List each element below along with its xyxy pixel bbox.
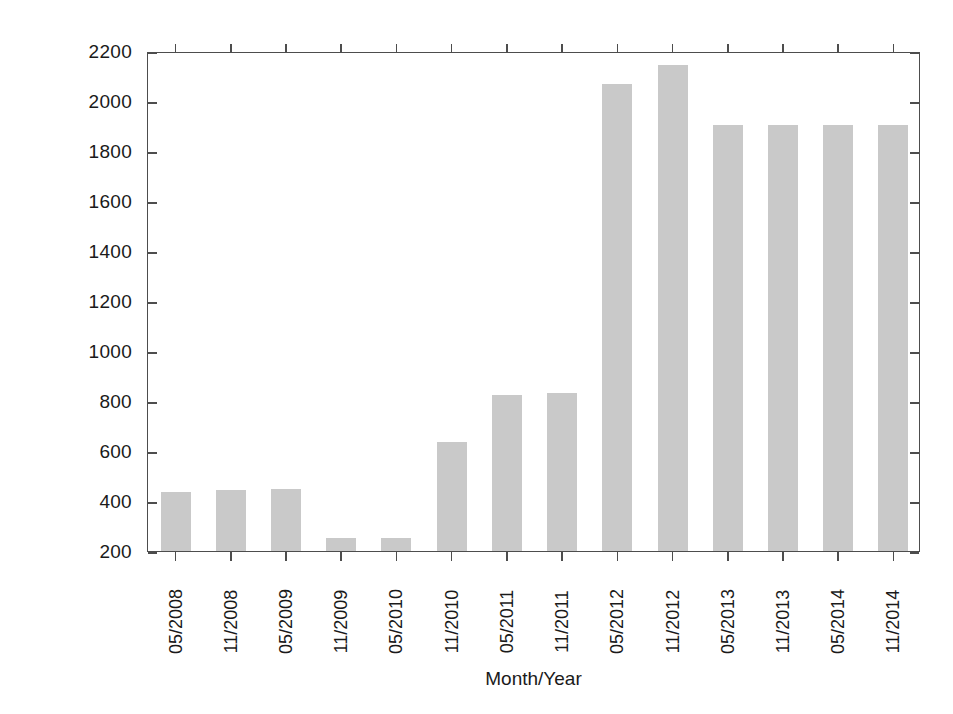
x-tick-label: 05/2011: [475, 567, 539, 632]
x-tick-mark-top: [617, 44, 619, 53]
x-tick-label-text: 11/2008: [220, 590, 241, 654]
y-tick-mark-right: [910, 202, 919, 204]
y-tick-mark: [148, 352, 157, 354]
x-tick-label-text: 11/2012: [662, 590, 683, 654]
x-axis-title: Month/Year: [147, 668, 920, 690]
x-tick-label-text: 11/2013: [772, 590, 793, 654]
x-tick-mark: [396, 552, 398, 561]
bar: [492, 395, 522, 551]
y-tick-label: 1600: [32, 191, 132, 213]
x-tick-mark-top: [727, 44, 729, 53]
x-tick-mark-top: [672, 44, 674, 53]
x-tick-mark: [230, 552, 232, 561]
x-tick-mark: [727, 552, 729, 561]
bar: [381, 538, 411, 551]
plot-area: 2004006008001000120014001600180020002200…: [147, 52, 920, 552]
y-tick-label: 800: [32, 391, 132, 413]
y-tick-mark: [148, 552, 157, 554]
x-tick-mark-top: [396, 44, 398, 53]
x-tick-mark-top: [451, 44, 453, 53]
x-tick-label-text: 05/2011: [496, 590, 517, 654]
y-tick-mark: [148, 402, 157, 404]
x-tick-mark: [782, 552, 784, 561]
y-tick-mark-right: [910, 552, 919, 554]
x-tick-mark: [285, 552, 287, 561]
x-tick-mark: [506, 552, 508, 561]
bar: [713, 125, 743, 551]
bar: [161, 492, 191, 551]
bar: [602, 84, 632, 551]
x-tick-label-text: 05/2010: [386, 589, 407, 654]
x-tick-label-text: 11/2014: [883, 590, 904, 654]
x-tick-mark-top: [561, 44, 563, 53]
y-tick-label: 2200: [32, 41, 132, 63]
y-tick-mark: [148, 252, 157, 254]
x-tick-mark: [672, 552, 674, 561]
x-tick-mark-top: [893, 44, 895, 53]
y-tick-mark-right: [910, 102, 919, 104]
x-tick-mark-top: [837, 44, 839, 53]
x-tick-mark-top: [230, 44, 232, 53]
y-tick-label: 600: [32, 441, 132, 463]
x-tick-mark-top: [175, 44, 177, 53]
x-tick-label: 11/2014: [862, 567, 926, 632]
y-tick-mark-right: [910, 452, 919, 454]
x-tick-label-text: 05/2009: [276, 589, 297, 654]
y-tick-mark-right: [910, 352, 919, 354]
y-tick-mark-right: [910, 252, 919, 254]
x-tick-label-text: 11/2010: [441, 590, 462, 654]
y-tick-mark: [148, 102, 157, 104]
y-tick-label: 2000: [32, 91, 132, 113]
x-tick-mark: [837, 552, 839, 561]
bar: [878, 125, 908, 551]
y-tick-mark-right: [910, 302, 919, 304]
y-tick-label: 400: [32, 491, 132, 513]
x-tick-mark: [893, 552, 895, 561]
y-tick-label: 1400: [32, 241, 132, 263]
bar: [658, 65, 688, 551]
x-tick-mark: [451, 552, 453, 561]
y-tick-mark: [148, 52, 157, 54]
bar: [768, 125, 798, 551]
y-tick-mark: [148, 452, 157, 454]
bar: [271, 489, 301, 551]
y-tick-mark: [148, 152, 157, 154]
y-tick-mark: [148, 302, 157, 304]
x-tick-mark-top: [285, 44, 287, 53]
bar: [326, 538, 356, 551]
bar: [216, 490, 246, 551]
bar: [823, 125, 853, 551]
x-tick-label: 11/2010: [420, 567, 484, 632]
y-tick-mark-right: [910, 502, 919, 504]
x-tick-label-text: 11/2011: [552, 590, 573, 652]
x-tick-label-text: 05/2008: [165, 589, 186, 654]
y-tick-mark-right: [910, 152, 919, 154]
x-tick-mark-top: [506, 44, 508, 53]
y-tick-label: 1200: [32, 291, 132, 313]
y-tick-mark-right: [910, 52, 919, 54]
x-tick-mark: [617, 552, 619, 561]
chart-figure: Performance/power consumption [Mflop/s /…: [0, 0, 953, 714]
x-tick-mark: [340, 552, 342, 561]
y-tick-label: 200: [32, 541, 132, 563]
x-tick-mark: [175, 552, 177, 561]
y-tick-mark: [148, 202, 157, 204]
x-tick-label-text: 11/2009: [331, 590, 352, 654]
x-tick-mark: [561, 552, 563, 561]
x-tick-label-text: 05/2013: [717, 589, 738, 654]
x-tick-label-text: 05/2014: [828, 589, 849, 654]
x-tick-mark-top: [340, 44, 342, 53]
bar: [437, 442, 467, 551]
bar: [547, 393, 577, 551]
y-tick-mark: [148, 502, 157, 504]
y-tick-mark-right: [910, 402, 919, 404]
x-tick-label-text: 05/2012: [607, 589, 628, 654]
y-tick-label: 1000: [32, 341, 132, 363]
y-tick-label: 1800: [32, 141, 132, 163]
x-tick-mark-top: [782, 44, 784, 53]
